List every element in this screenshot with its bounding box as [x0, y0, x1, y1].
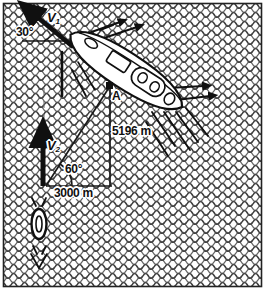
point-a-marker	[106, 82, 113, 89]
label-point-a: A	[112, 90, 120, 102]
label-angle-60: 60°	[65, 163, 82, 175]
label-velocity-1: V1	[47, 11, 60, 24]
diagram-canvas: V1 30° V2 A 5196 m 60° 3000 m	[0, 0, 265, 290]
label-distance-horizontal: 3000 m	[54, 187, 93, 199]
label-velocity-2: V2	[47, 139, 60, 152]
label-angle-30: 30°	[16, 26, 33, 38]
label-distance-vertical: 5196 m	[112, 125, 151, 137]
diagram-svg	[0, 0, 265, 290]
